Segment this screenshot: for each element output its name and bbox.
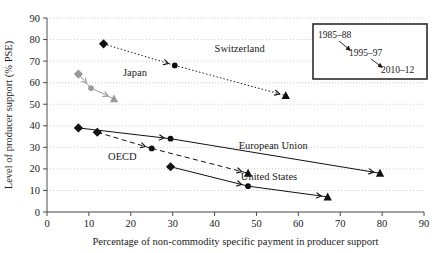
series-segment [171,167,248,186]
x-tick-labels-group: 0102030405060708090 [44,212,429,229]
period-legend: 1985–88 1995–97 2010–12 [313,24,427,79]
data-point-circle [245,183,251,189]
x-tick-label: 50 [251,218,262,229]
series-label-switzerland: Switzerland [215,43,266,54]
series-label-european-union: European Union [239,140,309,151]
y-tick-label: 90 [30,13,41,24]
y-tick-label: 0 [35,207,40,218]
data-point-circle [88,85,94,91]
x-tick-label: 80 [377,218,388,229]
data-point-triangle [110,94,118,102]
series-segment [248,186,328,197]
y-tick-label: 60 [30,77,41,88]
x-tick-label: 60 [293,218,304,229]
y-tick-labels-group: 0102030405060708090 [30,13,48,218]
legend-label-2010-12: 2010–12 [381,65,415,75]
series-direction-arrowhead [163,60,168,65]
x-tick-label: 0 [44,218,49,229]
data-point-diamond [74,123,83,132]
y-tick-label: 10 [30,185,41,196]
series-label-japan: Japan [123,67,148,78]
y-axis-title: Level of producer support (% PSE) [3,40,15,189]
series-label-united-states: United States [241,171,297,182]
data-point-diamond [166,162,175,171]
x-tick-label: 20 [126,218,137,229]
y-tick-label: 80 [30,34,41,45]
y-tick-label: 50 [30,99,41,110]
series-segment [152,148,248,173]
legend-label-1985-88: 1985–88 [318,30,352,40]
legend-label-1995-97: 1995–97 [349,48,383,58]
data-point-circle [172,63,178,69]
chart-container: 0102030405060708090 0102030405060708090 … [0,0,441,253]
series-segment [175,65,286,95]
data-point-circle [149,146,155,152]
y-tick-label: 70 [30,56,41,67]
series-segment [78,128,170,139]
series-japan [74,69,118,102]
y-tick-label: 20 [30,163,41,174]
x-tick-label: 10 [84,218,95,229]
series-label-oecd: OECD [108,151,137,162]
series-segment [97,132,151,148]
x-tick-label: 30 [167,218,178,229]
data-point-circle [168,136,174,142]
data-point-diamond [99,39,108,48]
producer-support-scatter-chart: 0102030405060708090 0102030405060708090 … [0,0,441,253]
series-segment [104,44,175,66]
data-point-diamond [93,128,102,137]
x-axis-title: Percentage of non-commodity specific pay… [92,236,378,247]
series-segment [91,88,114,99]
series-labels-group: SwitzerlandJapanEuropean UnionOECDUnited… [108,43,308,181]
x-tick-label: 90 [419,218,430,229]
y-tick-label: 30 [30,142,41,153]
y-tick-label: 40 [30,120,41,131]
x-tick-label: 40 [209,218,220,229]
x-tick-label: 70 [335,218,346,229]
